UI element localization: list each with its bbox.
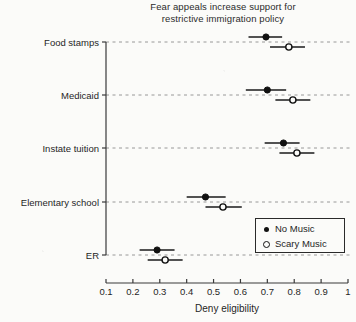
point-scary-music-3: [220, 204, 226, 210]
x-axis-title: Deny eligibility: [106, 303, 348, 314]
y-axis-label-instate-tuition: Instate tuition: [0, 143, 99, 154]
open-circle-icon: [261, 238, 272, 249]
point-no-music-3: [202, 194, 208, 200]
x-axis-tick-label-5: 0.6: [234, 286, 247, 297]
y-axis-label-elementary-school: Elementary school: [0, 197, 99, 208]
legend: No Music Scary Music: [255, 218, 345, 253]
legend-item-scary-music: Scary Music: [261, 236, 344, 251]
point-no-music-0: [263, 34, 269, 40]
x-axis-tick-label-0: 0.1: [99, 286, 112, 297]
point-no-music-1: [264, 87, 270, 93]
plot-area: [0, 0, 356, 322]
x-axis-tick-label-8: 0.9: [315, 286, 328, 297]
point-scary-music-2: [294, 150, 300, 156]
x-axis-tick-label-1: 0.2: [126, 286, 139, 297]
x-axis-tick-label-7: 0.8: [288, 286, 301, 297]
point-no-music-2: [280, 140, 286, 146]
legend-item-no-music: No Music: [261, 221, 344, 236]
x-axis-tick-label-9: 1: [345, 286, 350, 297]
y-axis-label-medicaid: Medicaid: [0, 90, 99, 101]
x-axis-tick-label-3: 0.4: [180, 286, 193, 297]
legend-label-scary-music: Scary Music: [275, 238, 327, 249]
x-axis-tick-label-2: 0.3: [153, 286, 166, 297]
point-scary-music-4: [162, 257, 168, 263]
point-scary-music-1: [290, 97, 296, 103]
plot-svg: [0, 0, 356, 322]
point-no-music-4: [154, 247, 160, 253]
x-axis-tick-label-4: 0.5: [207, 286, 220, 297]
point-scary-music-0: [286, 44, 292, 50]
x-axis-tick-label-6: 0.7: [261, 286, 274, 297]
chart-root: Fear appeals increase support for restri…: [0, 0, 356, 322]
legend-label-no-music: No Music: [275, 223, 315, 234]
y-axis-label-er: ER: [0, 250, 99, 261]
filled-circle-icon: [261, 223, 272, 234]
y-axis-label-food-stamps: Food stamps: [0, 37, 99, 48]
